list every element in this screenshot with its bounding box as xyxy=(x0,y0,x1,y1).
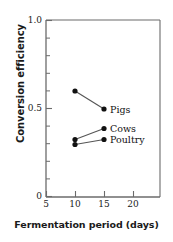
plot-area xyxy=(0,0,173,242)
series-label-cows: Cows xyxy=(110,123,136,134)
series-label-poultry: Poultry xyxy=(110,134,145,145)
y-major-ticks xyxy=(46,21,52,197)
series-label-pigs: Pigs xyxy=(110,104,130,115)
data-point-cows-day10 xyxy=(72,137,77,142)
chart-figure: Conversion efficiency 1.0 0.5 0 5 10 15 … xyxy=(0,0,173,242)
series-pigs xyxy=(72,88,106,111)
data-point-pigs-day15 xyxy=(101,106,106,111)
data-point-poultry-day15 xyxy=(101,137,106,142)
data-point-cows-day15 xyxy=(101,126,106,131)
data-point-poultry-day10 xyxy=(72,142,77,147)
data-point-pigs-day10 xyxy=(72,88,77,93)
x-major-ticks xyxy=(47,191,134,197)
